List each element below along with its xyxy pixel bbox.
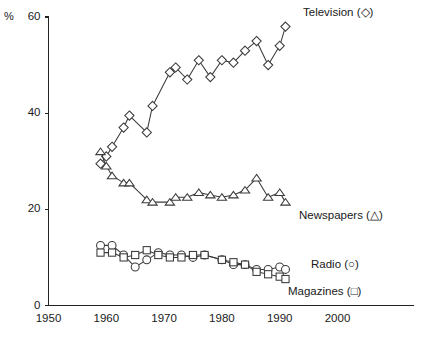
x-axis-tick-label: 1980: [209, 312, 235, 324]
y-axis-tick-labels: 0204060: [28, 10, 41, 311]
data-point-marker: [131, 263, 139, 271]
data-point-marker: [201, 251, 208, 258]
data-series-layer: [96, 22, 290, 283]
data-point-marker: [264, 60, 273, 69]
series-television: [96, 22, 290, 168]
data-point-marker: [119, 123, 128, 132]
legend-group: Television (◇) Newspapers (△) Radio (○) …: [288, 6, 383, 297]
data-point-marker: [143, 256, 151, 264]
y-axis-tick-label: 20: [28, 202, 41, 214]
data-point-marker: [107, 142, 116, 151]
legend-label-newspapers: Newspapers (△): [299, 209, 383, 221]
data-point-marker: [218, 256, 225, 263]
data-point-marker: [282, 275, 289, 282]
legend-label-magazines: Magazines (□): [288, 285, 362, 297]
chart-container: 0204060 195019601970198019902000 % Telev…: [0, 0, 422, 338]
x-axis-tick-label: 1960: [94, 312, 120, 324]
data-point-marker: [265, 271, 272, 278]
data-point-marker: [240, 187, 249, 194]
data-point-marker: [155, 251, 162, 258]
data-point-marker: [229, 191, 238, 198]
y-axis-group: [45, 17, 49, 306]
data-point-marker: [263, 194, 272, 201]
line-chart-svg: 0204060 195019601970198019902000 % Telev…: [0, 0, 422, 338]
y-axis-title: %: [4, 10, 14, 22]
data-point-marker: [282, 265, 290, 273]
data-point-marker: [96, 148, 105, 155]
data-point-marker: [178, 254, 185, 261]
y-axis-tick-label: 60: [28, 10, 41, 22]
data-point-marker: [97, 249, 104, 256]
data-point-marker: [275, 41, 284, 50]
data-point-marker: [120, 254, 127, 261]
y-axis-tick-label: 0: [34, 299, 40, 311]
data-point-marker: [194, 189, 203, 196]
legend-label-radio: Radio (○): [311, 258, 359, 270]
data-point-marker: [132, 251, 139, 258]
y-axis-tick-label: 40: [28, 106, 41, 118]
series-line: [101, 27, 286, 164]
data-point-marker: [108, 241, 116, 249]
x-axis-tick-label: 2000: [325, 312, 351, 324]
data-point-marker: [252, 175, 261, 182]
data-point-marker: [206, 73, 215, 82]
data-point-marker: [97, 241, 105, 249]
data-point-marker: [241, 261, 248, 268]
series-newspapers: [96, 148, 290, 205]
data-point-marker: [230, 259, 237, 266]
data-point-marker: [194, 56, 203, 65]
data-point-marker: [281, 199, 290, 206]
data-point-marker: [281, 22, 290, 31]
data-point-marker: [217, 56, 226, 65]
data-point-marker: [143, 247, 150, 254]
data-point-marker: [108, 249, 115, 256]
data-point-marker: [253, 268, 260, 275]
x-axis-tick-labels: 195019601970198019902000: [36, 312, 351, 324]
data-point-marker: [148, 101, 157, 110]
x-axis-tick-label: 1950: [36, 312, 62, 324]
x-axis-tick-label: 1970: [151, 312, 177, 324]
x-axis-tick-label: 1990: [267, 312, 293, 324]
data-point-marker: [166, 254, 173, 261]
data-point-marker: [107, 172, 116, 179]
data-point-marker: [189, 251, 196, 258]
legend-label-television: Television (◇): [303, 6, 374, 18]
data-point-marker: [275, 189, 284, 196]
